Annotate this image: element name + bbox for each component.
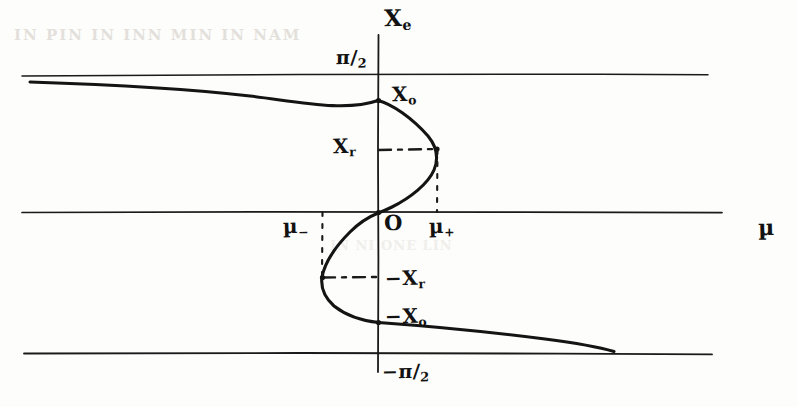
mu-axis-label: µ — [758, 216, 775, 238]
xe-axis-label-sub: e — [402, 17, 411, 33]
label-mu-minus-sub: − — [298, 224, 309, 239]
node-dot-fold-upper — [434, 146, 439, 151]
label-x-zero-lower-sub: o — [418, 314, 427, 329]
label-x-zero-upper: Xo — [392, 84, 417, 107]
label-x-r-lower: −Xr — [385, 268, 425, 292]
label-mu-minus: µ− — [283, 216, 309, 239]
lower-asymptote-den: 2 — [420, 369, 430, 384]
mu-minus-drop-dotted — [322, 212, 323, 277]
origin-label-text: O — [384, 210, 403, 235]
mu-axis-line — [22, 212, 722, 213]
upper-asymptote-line — [22, 74, 708, 76]
lower-asymptote-line — [24, 353, 712, 354]
label-x-r-lower-main: −X — [385, 266, 419, 291]
mu-axis-label-main: µ — [758, 214, 775, 240]
figure-page: IN PIN IN INN MIN IN NAM IN NI ONE LIN X… — [0, 0, 798, 407]
hysteresis-curve-figure — [0, 0, 798, 407]
label-x-r-upper: Xr — [333, 136, 356, 159]
label-x-zero-lower-main: −X — [385, 304, 419, 329]
label-mu-plus-sub: + — [444, 224, 455, 239]
lower-asymptote-label: −π/2 — [382, 362, 430, 386]
node-dot-origin — [376, 210, 381, 215]
label-mu-plus-main: µ — [429, 214, 445, 238]
origin-label: O — [384, 212, 403, 233]
xe-axis-label-main: X — [384, 4, 403, 31]
node-dot-x-zero-lower — [376, 320, 381, 325]
label-x-r-upper-sub: r — [349, 144, 356, 159]
xr-upper-leader-dashed — [379, 149, 437, 150]
node-dot-x-zero-upper — [376, 98, 381, 103]
lower-asymptote-num: π — [398, 360, 413, 382]
label-x-zero-lower: −Xo — [385, 306, 427, 330]
node-dot-fold-lower — [320, 275, 325, 280]
label-x-r-upper-main: X — [333, 134, 350, 158]
upper-asymptote-den: 2 — [358, 56, 368, 71]
label-x-zero-upper-main: X — [392, 82, 409, 106]
label-x-zero-upper-sub: o — [408, 92, 417, 107]
xr-lower-leader-dashed — [323, 277, 379, 278]
label-mu-minus-main: µ — [283, 214, 299, 238]
upper-asymptote-num: π — [336, 46, 351, 68]
lower-asymptote-sign: − — [382, 360, 399, 382]
label-x-r-lower-sub: r — [418, 276, 425, 291]
upper-asymptote-label: π/2 — [336, 48, 368, 71]
xe-axis-label: Xe — [384, 6, 412, 33]
label-mu-plus: µ+ — [429, 216, 455, 239]
